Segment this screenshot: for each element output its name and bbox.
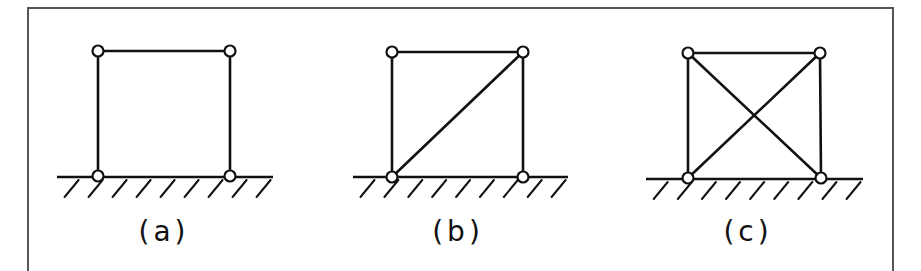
ground-hatch-mark xyxy=(552,180,566,197)
ground-hatch-mark xyxy=(233,180,247,197)
pin-joint-bottom-left-icon xyxy=(93,171,104,182)
pin-joint-top-left-icon xyxy=(93,46,104,57)
ground-hatch-mark xyxy=(822,182,836,199)
pin-joint-bottom-left-icon xyxy=(387,172,398,183)
pin-joint-top-right-icon xyxy=(815,48,826,59)
ground-hatch-mark xyxy=(89,180,103,197)
ground-hatch-mark xyxy=(161,180,175,197)
panel-a-unbraced-frame xyxy=(57,46,273,198)
ground-hatch-mark xyxy=(774,182,788,199)
member-bottom-left-to-top-right xyxy=(392,52,523,177)
ground-hatch-mark xyxy=(408,180,422,197)
ground-hatch-mark xyxy=(847,182,861,199)
ground-hatch-mark xyxy=(257,180,271,197)
ground-hatch-mark xyxy=(528,180,542,197)
panel-c-cross-braced-frame xyxy=(646,48,863,200)
panel-b-single-diagonal-frame xyxy=(353,47,568,198)
pin-joint-top-left-icon xyxy=(683,48,694,59)
ground-hatch-mark xyxy=(137,180,151,197)
ground-hatch-mark xyxy=(480,180,494,197)
member-top-right-to-bottom-right xyxy=(820,53,821,178)
pin-joint-top-left-icon xyxy=(387,47,398,58)
ground-hatch-mark xyxy=(209,180,223,197)
ground-hatch-mark xyxy=(65,180,79,197)
ground-hatch-mark xyxy=(702,182,716,199)
ground-hatch-mark xyxy=(185,180,199,197)
ground-hatch-mark xyxy=(432,180,446,197)
pin-joint-bottom-right-icon xyxy=(816,173,827,184)
pin-joint-bottom-right-icon xyxy=(225,171,236,182)
ground-hatch-mark xyxy=(726,182,740,199)
ground-hatch-mark xyxy=(654,182,668,199)
ground-hatch-mark xyxy=(361,180,375,197)
pin-joint-bottom-left-icon xyxy=(683,173,694,184)
pin-joint-bottom-right-icon xyxy=(518,172,529,183)
ground-hatch-mark xyxy=(504,180,518,197)
panel-b-label: (b) xyxy=(418,214,498,250)
ground-hatch-mark xyxy=(113,180,127,197)
ground-hatch-mark xyxy=(456,180,470,197)
panel-a-label: (a) xyxy=(124,214,204,250)
ground-hatch-mark xyxy=(678,182,692,199)
pin-joint-top-right-icon xyxy=(518,47,529,58)
pin-joint-top-right-icon xyxy=(225,46,236,57)
panel-c-label: (c) xyxy=(708,214,788,250)
ground-hatch-mark xyxy=(750,182,764,199)
ground-hatch-mark xyxy=(798,182,812,199)
